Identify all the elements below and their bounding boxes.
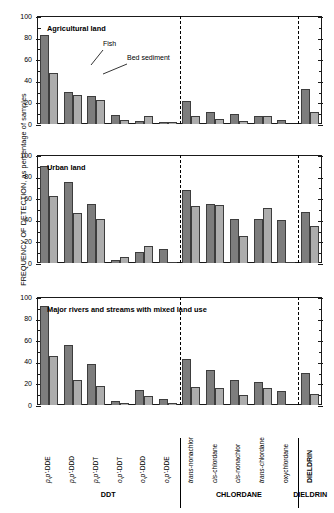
bar-fish [182,359,191,405]
bar-fish [277,120,286,124]
bar-sed [310,226,319,263]
bar-fish [40,35,49,124]
bar-sed [286,262,295,263]
x-axis-label: p,p'-DDD [68,456,75,483]
bar-fish [64,92,73,124]
bar-sed [215,388,224,405]
group-separator [180,16,181,124]
bar-fish [87,204,96,263]
y-tick-label: 20 [6,238,32,245]
bar-fish [277,220,286,263]
bar-sed [191,387,200,405]
bar-group [230,16,248,124]
y-tick-label: 100 [6,13,32,20]
bar-fish [159,249,168,263]
bar-fish [182,190,191,263]
bar-group [135,16,153,124]
y-tick-label: 60 [6,337,32,344]
bar-sed [239,121,248,124]
bar-sed [310,112,319,124]
bar-group [254,297,272,405]
bar-sed [120,257,129,263]
y-tick-label: 20 [6,99,32,106]
bar-group [206,16,224,124]
bar-fish [182,101,191,124]
y-tick-label: 40 [6,77,32,84]
x-axis-label: p,p'-DDE [44,456,51,483]
x-axis-group-labels: DDTCHLORDANEDIELDRIN [37,484,322,512]
bar-fish [135,252,144,263]
bar-sed [191,116,200,124]
bar-sed [96,386,105,405]
x-axis-label: cis-chlordane [211,444,218,483]
panel-title: Major rivers and streams with mixed land… [47,305,207,314]
panel-2: Urban land020406080100 [37,155,322,263]
bar-sed [144,116,153,124]
bar-fish [230,380,239,405]
bar-group [277,16,295,124]
bar-fish [301,373,310,405]
x-axis-label: o,p'-DDD [139,456,146,483]
y-tick-label: 40 [6,216,32,223]
y-tick-label: 60 [6,56,32,63]
bar-group [159,155,177,263]
x-axis-label: oxychlordane [282,444,289,483]
bar-sed [310,394,319,405]
bar-sed [215,119,224,124]
y-tick-label: 20 [6,380,32,387]
bar-sed [263,388,272,405]
bar-fish [301,89,310,124]
x-axis-label: trans-nonachlor [187,437,194,483]
bar-sed [49,73,58,124]
y-tick-right [318,125,323,126]
bar-sed [191,206,200,263]
bar-fish [64,182,73,263]
bar-fish [254,382,263,405]
bar-group [206,297,224,405]
bar-group [230,155,248,263]
bar-fish [40,306,49,405]
y-tick [36,125,41,126]
panel-3: Major rivers and streams with mixed land… [37,297,322,405]
y-tick-label: 0 [6,402,32,409]
bar-group [301,16,319,124]
bar-group [111,16,129,124]
bar-fish [87,96,96,124]
y-tick-label: 100 [6,294,32,301]
bar-sed [144,246,153,263]
bar-fish [64,345,73,405]
bar-sed [144,396,153,405]
bar-fish [40,166,49,263]
fish-annotation-label: Fish [103,40,116,47]
bar-fish [206,112,215,124]
bar-fish [206,204,215,263]
group-separator [298,16,299,124]
y-axis-title: FREQUENCY OF DETECTION, as percentage of… [19,25,28,355]
bar-sed [49,356,58,405]
bar-fish [254,219,263,263]
x-axis-label: DIELDRIN [306,450,313,483]
bar-group [206,155,224,263]
bar-sed [73,95,82,124]
bar-group [182,16,200,124]
bar-fish [230,219,239,263]
bar-group [301,297,319,405]
bar-group [159,16,177,124]
group-label-dieldrin: DIELDRIN [265,490,334,499]
bar-sed [168,122,177,124]
bar-group [254,16,272,124]
x-axis-label: cis-nonachlor [234,444,241,483]
bar-fish [254,116,263,124]
y-tick-right [318,264,323,265]
bar-group [277,155,295,263]
bar-fish [301,212,310,263]
bar-group [230,297,248,405]
bar-sed [49,196,58,263]
bar-sed [239,395,248,405]
bar-fish [159,399,168,405]
y-tick-label: 0 [6,260,32,267]
bar-fish [159,122,168,124]
group-divider [180,438,181,508]
y-tick-label: 80 [6,173,32,180]
bar-fish [277,391,286,405]
